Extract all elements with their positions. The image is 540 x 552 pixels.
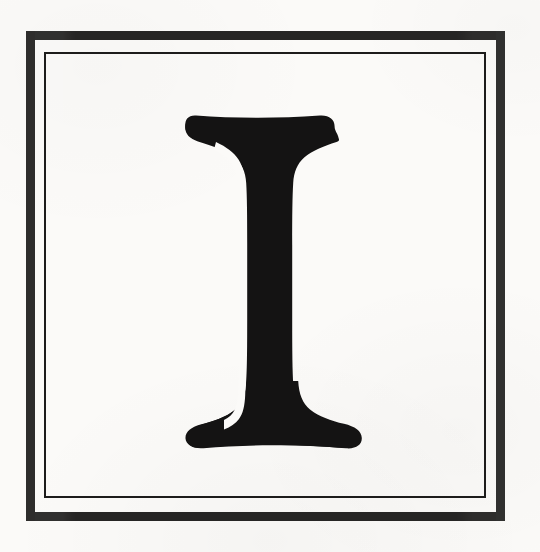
frame-inner-rule [44,52,486,498]
artwork-page: I [0,0,540,552]
